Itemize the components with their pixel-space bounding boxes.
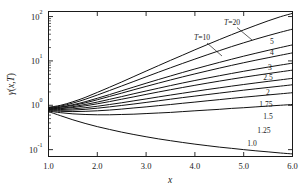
y-tick-label-0: 100 (31, 97, 43, 110)
y-tick-label--1: 10-1 (29, 142, 43, 155)
y-axis-title-group: γ(x,T) (6, 73, 17, 95)
x-tick-label-4.0: 4.0 (190, 161, 201, 171)
series-label-T-10: T=10 (194, 33, 210, 42)
series-label-T-3: 3 (268, 63, 272, 72)
x-tick-label-2.0: 2.0 (92, 161, 103, 171)
x-tick-label-5.0: 5.0 (238, 161, 249, 171)
series-label-T-5: 5 (270, 37, 274, 46)
figure-container: 10210110010-1 1.02.03.04.05.06.0 T=20T=1… (0, 0, 305, 191)
series-label-T-1.75: 1.75 (259, 100, 272, 109)
x-axis-major-ticks (49, 12, 293, 157)
y-axis-title: γ(x,T) (6, 73, 17, 95)
series-label-T-2.5: 2.5 (263, 73, 273, 82)
series-label-T-1.25: 1.25 (257, 126, 270, 135)
x-tick-label-3.0: 3.0 (141, 161, 152, 171)
y-tick-label-1: 101 (31, 53, 43, 66)
y-tick-label-2: 102 (31, 9, 43, 22)
curve-T-4 (49, 53, 293, 109)
x-tick-label-1.0: 1.0 (43, 161, 54, 171)
plot-frame (49, 12, 293, 157)
series-label-T-2: 2 (266, 88, 270, 97)
x-axis-tick-labels: 1.02.03.04.05.06.0 (43, 161, 298, 171)
series-label-T-20: T=20 (224, 18, 240, 27)
curve-T-5 (49, 45, 293, 108)
y-axis-tick-labels: 10210110010-1 (29, 9, 43, 155)
data-curves (49, 13, 293, 154)
x-axis-title: x (167, 175, 173, 185)
chart-canvas: 10210110010-1 1.02.03.04.05.06.0 T=20T=1… (0, 0, 305, 191)
x-tick-label-6.0: 6.0 (287, 161, 298, 171)
series-label-T-1.0: 1.0 (247, 139, 257, 148)
series-label-T-4: 4 (270, 48, 274, 57)
series-label-T-1.5: 1.5 (263, 112, 273, 121)
